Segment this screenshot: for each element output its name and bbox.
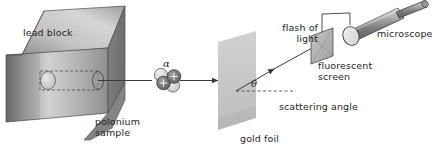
label-gold-foil: gold foil xyxy=(240,133,279,144)
label-polonium-sample: poloniumsample xyxy=(95,116,140,138)
label-fluorescent-screen-line1: fluorescent xyxy=(318,60,372,71)
label-lead-block: lead block xyxy=(23,27,73,38)
label-polonium-sample-line1: polonium xyxy=(95,116,140,127)
diagram-canvas xyxy=(0,0,432,153)
label-flash-of-light: flash oflight xyxy=(274,22,318,44)
polonium-sample-pellet xyxy=(41,72,56,90)
scattered-path-to-screen xyxy=(272,48,312,70)
label-alpha-particle: α xyxy=(163,58,170,69)
label-microscope: microscope xyxy=(377,28,432,39)
rutherford-scattering-diagram: lead block poloniumsample α gold foil θ … xyxy=(0,0,432,153)
label-polonium-sample-line2: sample xyxy=(95,127,130,138)
label-scattering-angle: scattering angle xyxy=(279,101,358,112)
microscope-group xyxy=(340,0,429,48)
label-flash-of-light-line1: flash of xyxy=(282,22,318,33)
label-theta-scattering-angle-symbol: θ xyxy=(251,78,257,89)
lead-block-shade-band xyxy=(6,52,40,122)
label-flash-of-light-line2: light xyxy=(296,33,318,44)
alpha-particle-group xyxy=(154,68,180,92)
label-fluorescent-screen-line2: screen xyxy=(318,71,350,82)
